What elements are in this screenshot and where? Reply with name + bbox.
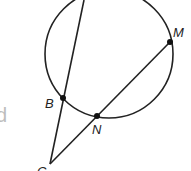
secant-c-to-top — [50, 0, 84, 164]
point-n-dot — [94, 113, 100, 119]
point-n-label: N — [92, 122, 102, 137]
point-c-label: C — [37, 164, 47, 171]
point-b-dot — [60, 95, 66, 101]
point-b-label: B — [45, 96, 54, 111]
point-m-label: M — [173, 25, 184, 40]
geometry-figure: BNMC — [0, 0, 191, 171]
